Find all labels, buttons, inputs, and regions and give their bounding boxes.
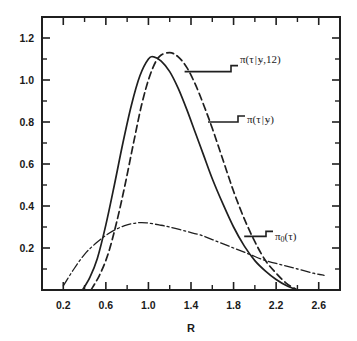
axis-tick-labels: 0.20.61.01.41.82.22.60.20.40.60.81.01.2 — [19, 32, 326, 311]
y-tick-label: 1.2 — [19, 32, 34, 44]
x-tick-label: 1.8 — [226, 299, 241, 311]
y-tick-label: 0.6 — [19, 158, 34, 170]
chart-canvas: 0.20.61.01.41.82.22.60.20.40.60.81.01.2 … — [0, 0, 357, 341]
figure-panel: 0.20.61.01.41.82.22.60.20.40.60.81.01.2 … — [0, 0, 357, 341]
y-tick-label: 0.4 — [19, 200, 34, 212]
y-tick-label: 0.2 — [19, 242, 34, 254]
annotation-rest: ) — [270, 113, 274, 125]
annotation-pi-tau-y-12: π(τ|y~,12) — [240, 49, 281, 67]
x-tick-label: 2.2 — [269, 299, 284, 311]
annotation-rest: (τ) — [285, 230, 297, 242]
annotation-undertilde: ~ — [258, 59, 264, 65]
data-curves — [63, 53, 324, 290]
annotation-pi-tau-y: π(τ|y~) — [247, 109, 274, 127]
curve-solid — [82, 57, 297, 290]
x-tick-label: 0.2 — [56, 299, 71, 311]
annotation-pi-0-tau: π0(τ) — [275, 226, 296, 244]
annotation-undertilde: ~ — [265, 119, 271, 125]
y-tick-label: 1.0 — [19, 74, 34, 86]
x-tick-label: 0.6 — [99, 299, 114, 311]
leader-line — [208, 116, 245, 122]
x-tick-label: 1.0 — [141, 299, 156, 311]
axes-border — [42, 17, 340, 290]
x-axis-title: R — [187, 322, 195, 334]
plot-frame — [42, 17, 340, 290]
curve-dashed — [91, 53, 297, 290]
annotation-leaders — [185, 66, 273, 237]
y-tick-label: 0.8 — [19, 116, 34, 128]
annotation-rest: ,12) — [263, 53, 280, 65]
leader-line — [185, 66, 238, 72]
leader-line — [244, 231, 273, 236]
axis-ticks — [42, 17, 340, 290]
x-tick-label: 1.4 — [184, 299, 199, 311]
x-tick-label: 2.6 — [311, 299, 326, 311]
